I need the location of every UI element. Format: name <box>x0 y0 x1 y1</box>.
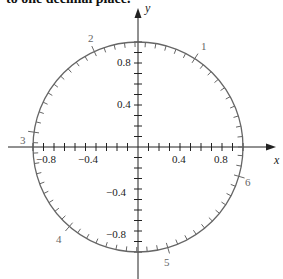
x-axis-arrow-icon <box>266 144 276 151</box>
unit-circle-diagram: x y −0.8 −0.4 0.4 0.8 0.8 0.4 −0.4 −0.8 … <box>0 0 283 279</box>
arc-label-2: 2 <box>88 32 94 44</box>
x-tick-label: −0.4 <box>78 153 98 165</box>
y-tick-label: −0.8 <box>106 228 126 240</box>
arc-label-5: 5 <box>164 256 170 268</box>
arc-label-3: 3 <box>20 134 26 146</box>
arc-label-6: 6 <box>245 176 251 188</box>
x-axis-label: x <box>273 153 280 167</box>
arc-label-4: 4 <box>56 233 62 245</box>
arc-label-1: 1 <box>201 40 207 52</box>
y-axis-arrow-icon <box>135 8 142 18</box>
y-tick-label: 0.4 <box>117 98 131 110</box>
x-tick-label: −0.8 <box>36 153 56 165</box>
x-tick-label: 0.8 <box>214 153 228 165</box>
axes <box>8 8 276 279</box>
y-axis-label: y <box>144 1 151 15</box>
y-tick-label: 0.8 <box>117 56 131 68</box>
y-tick-label: −0.4 <box>106 186 126 198</box>
x-tick-label: 0.4 <box>172 153 186 165</box>
